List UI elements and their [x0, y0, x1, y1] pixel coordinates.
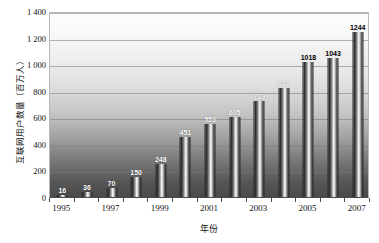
- bar: [131, 177, 142, 197]
- bar-slot: 605: [222, 13, 247, 197]
- x-axis-tick: [320, 198, 321, 202]
- bar-value-label: 553: [204, 116, 216, 123]
- x-axis-tick: [74, 198, 75, 202]
- x-axis-tick: [172, 198, 173, 202]
- bar-value-label: 1018: [301, 54, 317, 61]
- bar-slot: 719: [247, 13, 272, 197]
- bar: [254, 101, 265, 197]
- x-axis-tick: [197, 198, 198, 202]
- bar-value-label: 719: [253, 93, 265, 100]
- bar: [57, 195, 68, 197]
- bar-value-label: 16: [58, 187, 66, 194]
- y-axis-tick-label: 400: [16, 140, 46, 150]
- bar: [278, 88, 289, 197]
- bar-slot: 70: [99, 13, 124, 197]
- y-axis-tick-label: 600: [16, 113, 46, 123]
- bar-value-label: 451: [180, 129, 192, 136]
- y-axis-tick-labels: 02004006008001 0001 2001 400: [16, 12, 46, 198]
- bar-slot: 36: [75, 13, 100, 197]
- x-axis-title: 年份: [49, 222, 369, 235]
- bar-slot: 248: [148, 13, 173, 197]
- bar: [81, 192, 92, 197]
- y-axis-tick-label: 200: [16, 166, 46, 176]
- y-axis-tick-label: 1 000: [16, 60, 46, 70]
- x-axis-tick: [123, 198, 124, 202]
- x-axis-tick-label: 1995: [52, 203, 70, 213]
- bar-slot: 150: [124, 13, 149, 197]
- x-axis-tick: [369, 198, 370, 202]
- bar: [303, 62, 314, 197]
- x-axis-tick-label: 1997: [102, 203, 120, 213]
- bars-layer: 163670150248451553605719817101810431244: [50, 13, 368, 197]
- bar-slot: 817: [272, 13, 297, 197]
- bar: [204, 124, 215, 197]
- bar-slot: 1043: [321, 13, 346, 197]
- bar: [155, 164, 166, 197]
- bar-slot: 553: [198, 13, 223, 197]
- x-axis-tick-label: 2005: [298, 203, 316, 213]
- x-axis-tick: [271, 198, 272, 202]
- bar-slot: 1244: [345, 13, 369, 197]
- bar-value-label: 150: [130, 169, 142, 176]
- bar: [229, 117, 240, 197]
- y-axis-tick-label: 1 200: [16, 34, 46, 44]
- bar-slot: 1018: [296, 13, 321, 197]
- bar-value-label: 605: [229, 109, 241, 116]
- plot-area: 163670150248451553605719817101810431244: [49, 12, 369, 198]
- bar-value-label: 36: [83, 184, 91, 191]
- y-axis-tick-label: 800: [16, 87, 46, 97]
- x-axis-tick: [246, 198, 247, 202]
- x-axis-tick: [49, 198, 50, 202]
- bar-chart: 互联网用户数量（百万人） 02004006008001 0001 2001 40…: [0, 0, 379, 243]
- bar: [106, 188, 117, 197]
- bar-value-label: 70: [108, 180, 116, 187]
- x-axis-tick-labels: 1995199719992001200320052007: [49, 203, 369, 217]
- y-axis-tick-label: 1 400: [16, 7, 46, 17]
- x-axis-tick: [221, 198, 222, 202]
- x-axis-tick: [344, 198, 345, 202]
- x-axis-tick: [98, 198, 99, 202]
- x-axis-tick: [295, 198, 296, 202]
- bar-value-label: 817: [278, 80, 290, 87]
- bar: [328, 58, 339, 197]
- x-axis-tick: [147, 198, 148, 202]
- x-axis-tick-label: 2003: [249, 203, 267, 213]
- bar: [352, 32, 363, 197]
- x-axis-tick-label: 2007: [348, 203, 366, 213]
- bar: [180, 137, 191, 197]
- x-axis-tick-label: 2001: [200, 203, 218, 213]
- y-axis-tick-label: 0: [16, 193, 46, 203]
- bar-value-label: 1244: [350, 24, 366, 31]
- bar-slot: 451: [173, 13, 198, 197]
- bar-value-label: 1043: [325, 50, 341, 57]
- x-axis-tick-label: 1999: [151, 203, 169, 213]
- bar-value-label: 248: [155, 156, 167, 163]
- bar-slot: 16: [50, 13, 75, 197]
